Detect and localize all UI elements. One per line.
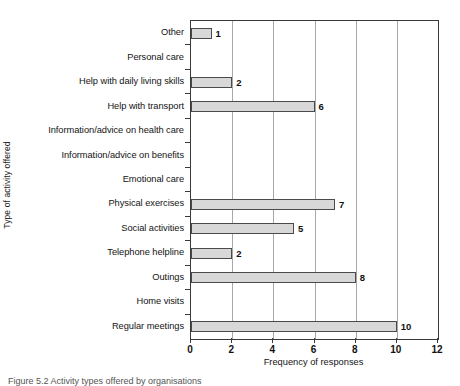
y-axis-title-label: Type of activity offered [2, 120, 12, 250]
bar-value-label: 2 [236, 77, 241, 88]
x-axis-tick [272, 338, 273, 343]
x-axis-tick [437, 338, 438, 343]
bar [191, 272, 356, 283]
x-axis-tick [231, 338, 232, 343]
category-label-list: OtherPersonal careHelp with daily living… [18, 20, 184, 338]
x-axis-tick [355, 338, 356, 343]
y-axis-tick [185, 265, 190, 266]
category-label: Home visits [18, 296, 184, 306]
bar-value-label: 7 [339, 199, 344, 210]
category-label: Emotional care [18, 174, 184, 184]
bar-value-label: 1 [216, 28, 221, 39]
x-axis-title: Frequency of responses [190, 357, 437, 367]
figure-caption-text: Figure 5.2 Activity types offered by org… [8, 376, 201, 386]
category-label: Other [18, 27, 184, 37]
x-axis-tick [396, 338, 397, 343]
category-label: Information/advice on benefits [18, 150, 184, 160]
gridline [356, 21, 357, 339]
x-axis-tick-label: 6 [311, 344, 317, 355]
y-axis-tick [185, 118, 190, 119]
category-label: Physical exercises [18, 198, 184, 208]
y-axis-tick [185, 216, 190, 217]
x-axis-tick-label: 4 [270, 344, 276, 355]
x-axis-tick-label: 0 [187, 344, 193, 355]
bar-value-label: 10 [401, 321, 412, 332]
plot-area: 126752810 [190, 20, 439, 340]
x-axis-tick-label: 2 [228, 344, 234, 355]
y-axis-tick [185, 191, 190, 192]
x-axis-tick [190, 338, 191, 343]
y-axis-tick [185, 289, 190, 290]
y-axis-tick [185, 69, 190, 70]
category-label: Outings [18, 272, 184, 282]
category-label: Regular meetings [18, 321, 184, 331]
bar [191, 223, 294, 234]
y-axis-tick [185, 240, 190, 241]
x-axis-tick-label: 10 [390, 344, 401, 355]
x-axis-tick-label: 8 [352, 344, 358, 355]
bar [191, 101, 315, 112]
bar-value-label: 8 [360, 272, 365, 283]
category-label: Social activities [18, 223, 184, 233]
bar [191, 321, 397, 332]
x-axis-tick-label: 12 [431, 344, 442, 355]
category-label: Information/advice on health care [18, 125, 184, 135]
bar [191, 199, 335, 210]
bar [191, 28, 212, 39]
figure-caption: Figure 5.2 Activity types offered by org… [8, 376, 452, 386]
bar-value-label: 2 [236, 248, 241, 259]
bar-value-label: 5 [298, 223, 303, 234]
y-axis-tick [185, 314, 190, 315]
y-axis-tick [185, 167, 190, 168]
bar-value-label: 6 [319, 101, 324, 112]
bar [191, 248, 232, 259]
gridline [397, 21, 398, 339]
y-axis-title: Type of activity offered [0, 0, 16, 120]
x-axis-tick [314, 338, 315, 343]
category-label: Telephone helpline [18, 247, 184, 257]
gridline [273, 21, 274, 339]
y-axis-tick [185, 142, 190, 143]
figure-container: Type of activity offered OtherPersonal c… [0, 0, 460, 386]
y-axis-tick [185, 93, 190, 94]
category-label: Help with transport [18, 101, 184, 111]
gridline [315, 21, 316, 339]
gridline [232, 21, 233, 339]
category-label: Personal care [18, 52, 184, 62]
y-axis-tick [185, 44, 190, 45]
category-label: Help with daily living skills [18, 76, 184, 86]
bar [191, 77, 232, 88]
